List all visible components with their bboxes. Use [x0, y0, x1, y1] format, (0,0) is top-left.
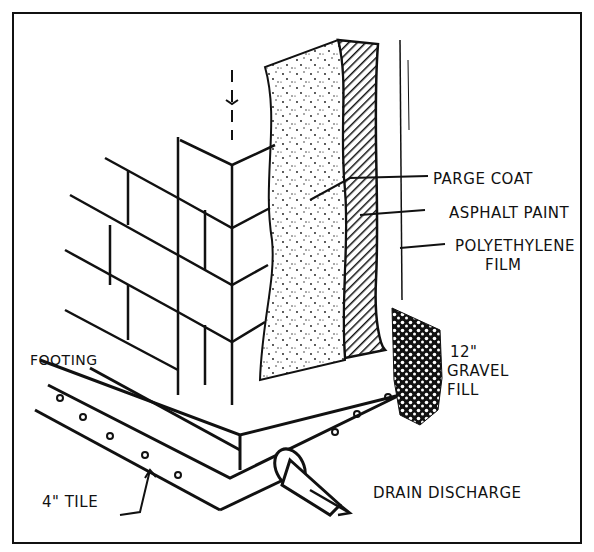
wall-hatched-layer	[338, 40, 409, 358]
label-polyethylene-line1: POLYETHYLENE	[455, 237, 575, 255]
polyethylene-leader	[400, 244, 445, 248]
label-polyethylene-line2: FILM	[485, 256, 521, 274]
label-asphalt-paint: ASPHALT PAINT	[449, 204, 569, 222]
label-footing: FOOTING	[30, 351, 98, 369]
polyethylene-film-line	[400, 40, 402, 300]
gravel-fill	[392, 308, 442, 425]
label-gravel-line2: GRAVEL	[447, 362, 509, 380]
foundation-illustration	[0, 0, 594, 552]
label-gravel-line3: FILL	[447, 381, 479, 399]
footing	[40, 360, 400, 470]
parge-coat-layer	[260, 40, 346, 380]
label-tile: 4" TILE	[42, 493, 98, 511]
label-gravel-line1: 12"	[450, 343, 478, 361]
drain-tile	[35, 385, 400, 510]
label-parge-coat: PARGE COAT	[433, 170, 533, 188]
label-drain-discharge: DRAIN DISCHARGE	[373, 484, 522, 502]
discharge-pipe	[269, 444, 350, 515]
